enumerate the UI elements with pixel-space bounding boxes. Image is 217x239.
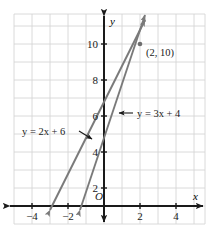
y-axis-label: y <box>109 15 115 27</box>
coordinate-plane-figure: y x O 10 8 6 4 2 −4 −2 2 4 y = 3x + 4 y … <box>0 0 217 239</box>
x-tick-label-neg4: −4 <box>26 210 38 222</box>
y-tick-label-8: 8 <box>93 74 99 86</box>
equation-label-line1: y = 2x + 6 <box>22 126 65 137</box>
x-tick-label-2: 2 <box>137 210 143 222</box>
x-tick-label-4: 4 <box>173 210 179 222</box>
y-tick-label-2: 2 <box>93 182 99 194</box>
y-tick-label-6: 6 <box>93 110 99 122</box>
y-tick-label-10: 10 <box>87 38 99 50</box>
equation-label-line2: y = 3x + 4 <box>137 108 181 119</box>
intersection-point-label: (2, 10) <box>146 47 174 59</box>
intersection-point-marker <box>138 42 143 47</box>
x-axis-label: x <box>192 190 198 202</box>
x-tick-label-neg2: −2 <box>62 210 74 222</box>
graph-canvas: y x O 10 8 6 4 2 −4 −2 2 4 y = 3x + 4 y … <box>0 0 217 239</box>
y-tick-label-4: 4 <box>93 146 99 158</box>
